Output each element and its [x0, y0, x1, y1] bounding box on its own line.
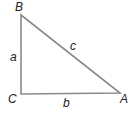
- side-label-a: a: [10, 50, 17, 64]
- side-label-b: b: [63, 96, 70, 110]
- triangle-shape: [21, 15, 120, 94]
- vertex-label-a: A: [119, 92, 128, 106]
- side-label-c: c: [70, 39, 76, 53]
- vertex-label-b: B: [15, 0, 23, 14]
- triangle-diagram: B C A a b c: [0, 0, 133, 114]
- vertex-label-c: C: [8, 92, 17, 106]
